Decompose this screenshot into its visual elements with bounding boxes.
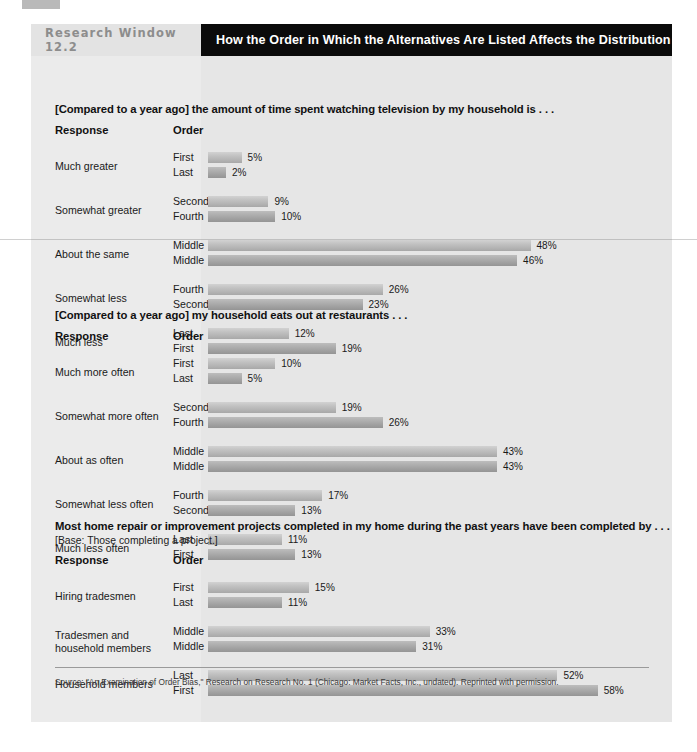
question-text: [Compared to a year ago] the amount of t… bbox=[55, 103, 554, 115]
bar bbox=[208, 152, 242, 163]
column-header-order: Order bbox=[173, 330, 203, 342]
response-label: household members bbox=[55, 642, 151, 654]
bar-value-label: 31% bbox=[422, 641, 442, 652]
response-label: Much more often bbox=[55, 366, 135, 378]
bar-value-label: 2% bbox=[232, 167, 246, 178]
bar-value-label: 5% bbox=[248, 373, 262, 384]
bar bbox=[208, 461, 497, 472]
bar-value-label: 10% bbox=[281, 211, 301, 222]
bar-value-label: 19% bbox=[342, 343, 362, 354]
question-text: Most home repair or improvement projects… bbox=[55, 520, 670, 532]
bar bbox=[208, 505, 295, 516]
order-label: Middle bbox=[173, 239, 204, 251]
bar bbox=[208, 490, 322, 501]
bar bbox=[208, 626, 430, 637]
bar bbox=[208, 597, 282, 608]
bar bbox=[208, 446, 497, 457]
header-title-box: How the Order in Which the Alternatives … bbox=[201, 24, 672, 56]
column-header-response: Response bbox=[55, 124, 108, 136]
bar bbox=[208, 402, 336, 413]
bar-value-label: 19% bbox=[342, 402, 362, 413]
order-label: Fourth bbox=[173, 283, 204, 295]
bar bbox=[208, 582, 309, 593]
bar bbox=[208, 373, 242, 384]
bar bbox=[208, 211, 275, 222]
response-label: Hiring tradesmen bbox=[55, 590, 136, 602]
bar bbox=[208, 549, 295, 560]
response-label: Somewhat less often bbox=[55, 498, 153, 510]
header-kicker: Research Window 12.2 bbox=[31, 26, 201, 54]
top-corner-tab bbox=[22, 0, 60, 9]
order-label: Second bbox=[173, 504, 209, 516]
bar-value-label: 11% bbox=[288, 597, 307, 608]
column-header-order: Order bbox=[173, 554, 203, 566]
order-label: Middle bbox=[173, 445, 204, 457]
bar-value-label: 26% bbox=[389, 417, 409, 428]
panel-content: [Compared to a year ago] the amount of t… bbox=[31, 56, 672, 722]
scan-artifact-line bbox=[0, 239, 697, 240]
research-window-panel: Research Window 12.2 How the Order in Wh… bbox=[31, 24, 672, 722]
bar bbox=[208, 167, 226, 178]
order-label: Middle bbox=[173, 625, 204, 637]
order-label: Second bbox=[173, 195, 209, 207]
order-label: First bbox=[173, 357, 194, 369]
bar bbox=[208, 417, 383, 428]
bar bbox=[208, 328, 289, 339]
order-label: Last bbox=[173, 166, 193, 178]
response-label: About the same bbox=[55, 248, 129, 260]
bar-value-label: 15% bbox=[315, 582, 335, 593]
page-title: How the Order in Which the Alternatives … bbox=[201, 33, 697, 47]
order-label: Fourth bbox=[173, 210, 204, 222]
order-label: First bbox=[173, 581, 194, 593]
bar bbox=[208, 534, 282, 545]
order-label: Second bbox=[173, 401, 209, 413]
bar-value-label: 43% bbox=[503, 461, 523, 472]
source-note: Source: "An Examination of Order Bias," … bbox=[55, 677, 558, 687]
bar bbox=[208, 196, 268, 207]
bar bbox=[208, 641, 416, 652]
question-text: [Compared to a year ago] my household ea… bbox=[55, 309, 407, 321]
response-label: Somewhat greater bbox=[55, 204, 142, 216]
question-subnote: [Base: Those completing a project.] bbox=[55, 535, 218, 546]
response-label: Tradesmen and bbox=[55, 629, 129, 641]
bar-value-label: 26% bbox=[389, 284, 409, 295]
column-header-response: Response bbox=[55, 554, 108, 566]
order-label: Middle bbox=[173, 254, 204, 266]
bar bbox=[208, 343, 336, 354]
bar-value-label: 13% bbox=[301, 505, 321, 516]
order-label: Middle bbox=[173, 640, 204, 652]
column-header-response: Response bbox=[55, 330, 108, 342]
bar bbox=[208, 240, 531, 251]
footer-divider bbox=[55, 667, 649, 668]
order-label: First bbox=[173, 151, 194, 163]
bar-value-label: 52% bbox=[563, 670, 583, 681]
bar-value-label: 10% bbox=[281, 358, 301, 369]
bar bbox=[208, 284, 383, 295]
response-label: Much greater bbox=[55, 160, 117, 172]
response-label: About as often bbox=[55, 454, 123, 466]
order-label: Middle bbox=[173, 460, 204, 472]
order-label: Last bbox=[173, 596, 193, 608]
panel-header: Research Window 12.2 How the Order in Wh… bbox=[31, 24, 672, 56]
panel-body: Research Window 12.2 How the Order in Wh… bbox=[31, 24, 672, 722]
bar bbox=[208, 255, 517, 266]
bar-value-label: 12% bbox=[295, 328, 315, 339]
column-header-order: Order bbox=[173, 124, 203, 136]
bar-value-label: 48% bbox=[537, 240, 557, 251]
bar bbox=[208, 358, 275, 369]
order-label: Fourth bbox=[173, 489, 204, 501]
page-root: Research Window 12.2 How the Order in Wh… bbox=[0, 0, 697, 752]
order-label: Last bbox=[173, 372, 193, 384]
bar-value-label: 33% bbox=[436, 626, 456, 637]
order-label: First bbox=[173, 342, 194, 354]
response-label: Somewhat less bbox=[55, 292, 127, 304]
bar-value-label: 43% bbox=[503, 446, 523, 457]
order-label: Fourth bbox=[173, 416, 204, 428]
bar-value-label: 13% bbox=[301, 549, 321, 560]
bar-value-label: 17% bbox=[328, 490, 348, 501]
response-label: Somewhat more often bbox=[55, 410, 159, 422]
bar-value-label: 9% bbox=[274, 196, 288, 207]
bar-value-label: 5% bbox=[248, 152, 262, 163]
bar-value-label: 11% bbox=[288, 534, 307, 545]
bar-value-label: 46% bbox=[523, 255, 543, 266]
